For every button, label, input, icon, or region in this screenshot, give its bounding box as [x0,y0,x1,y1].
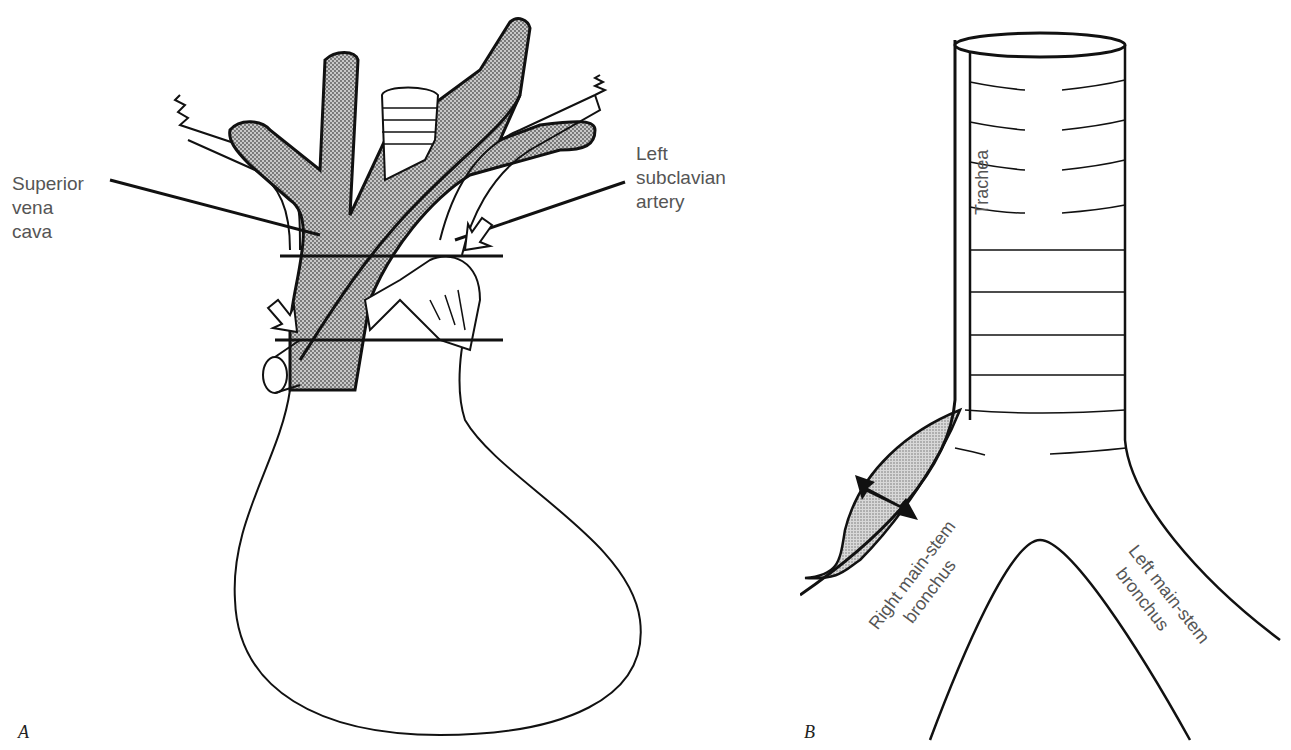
panel-letter-a: A [18,722,29,743]
label-superior-vena-cava: Superior vena cava [12,172,84,244]
label-left-subclavian-artery: Left subclavian artery [636,142,726,214]
label-trachea: Trachea [970,150,994,215]
panel-a-mediastinum-diagram: Superior vena cava Left subclavian arter… [0,0,800,750]
tracheal-rings [955,80,1126,455]
trachea-drawing [800,0,1291,750]
panel-letter-b: B [804,722,815,743]
panel-b-trachea-diagram: Trachea Right main-stem bronchus Left ma… [800,0,1291,750]
mediastinum-drawing [0,0,800,750]
